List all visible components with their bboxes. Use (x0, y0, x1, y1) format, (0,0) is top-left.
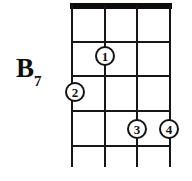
finger-marker-3[interactable]: 3 (127, 119, 147, 139)
finger-marker-label: 3 (134, 123, 141, 136)
nut (70, 3, 172, 9)
finger-marker-label: 2 (72, 86, 79, 99)
finger-marker-4[interactable]: 4 (159, 119, 179, 139)
fretboard: 1 2 3 4 (0, 0, 192, 181)
fret-line-3 (71, 110, 171, 112)
fret-line-4 (71, 145, 171, 147)
fret-line-1 (71, 41, 171, 43)
finger-marker-label: 1 (102, 50, 109, 63)
finger-marker-2[interactable]: 2 (65, 82, 85, 102)
string-line-4 (169, 5, 171, 167)
string-line-3 (136, 5, 138, 167)
finger-marker-1[interactable]: 1 (95, 46, 115, 66)
fret-line-2 (71, 75, 171, 77)
string-line-2 (104, 5, 106, 167)
finger-marker-label: 4 (166, 123, 173, 136)
chord-diagram: B7 1 2 3 4 (0, 0, 192, 181)
